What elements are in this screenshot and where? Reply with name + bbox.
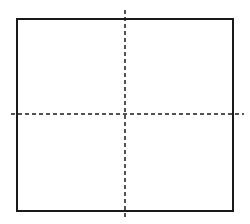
square-quadrant-diagram <box>0 0 250 224</box>
